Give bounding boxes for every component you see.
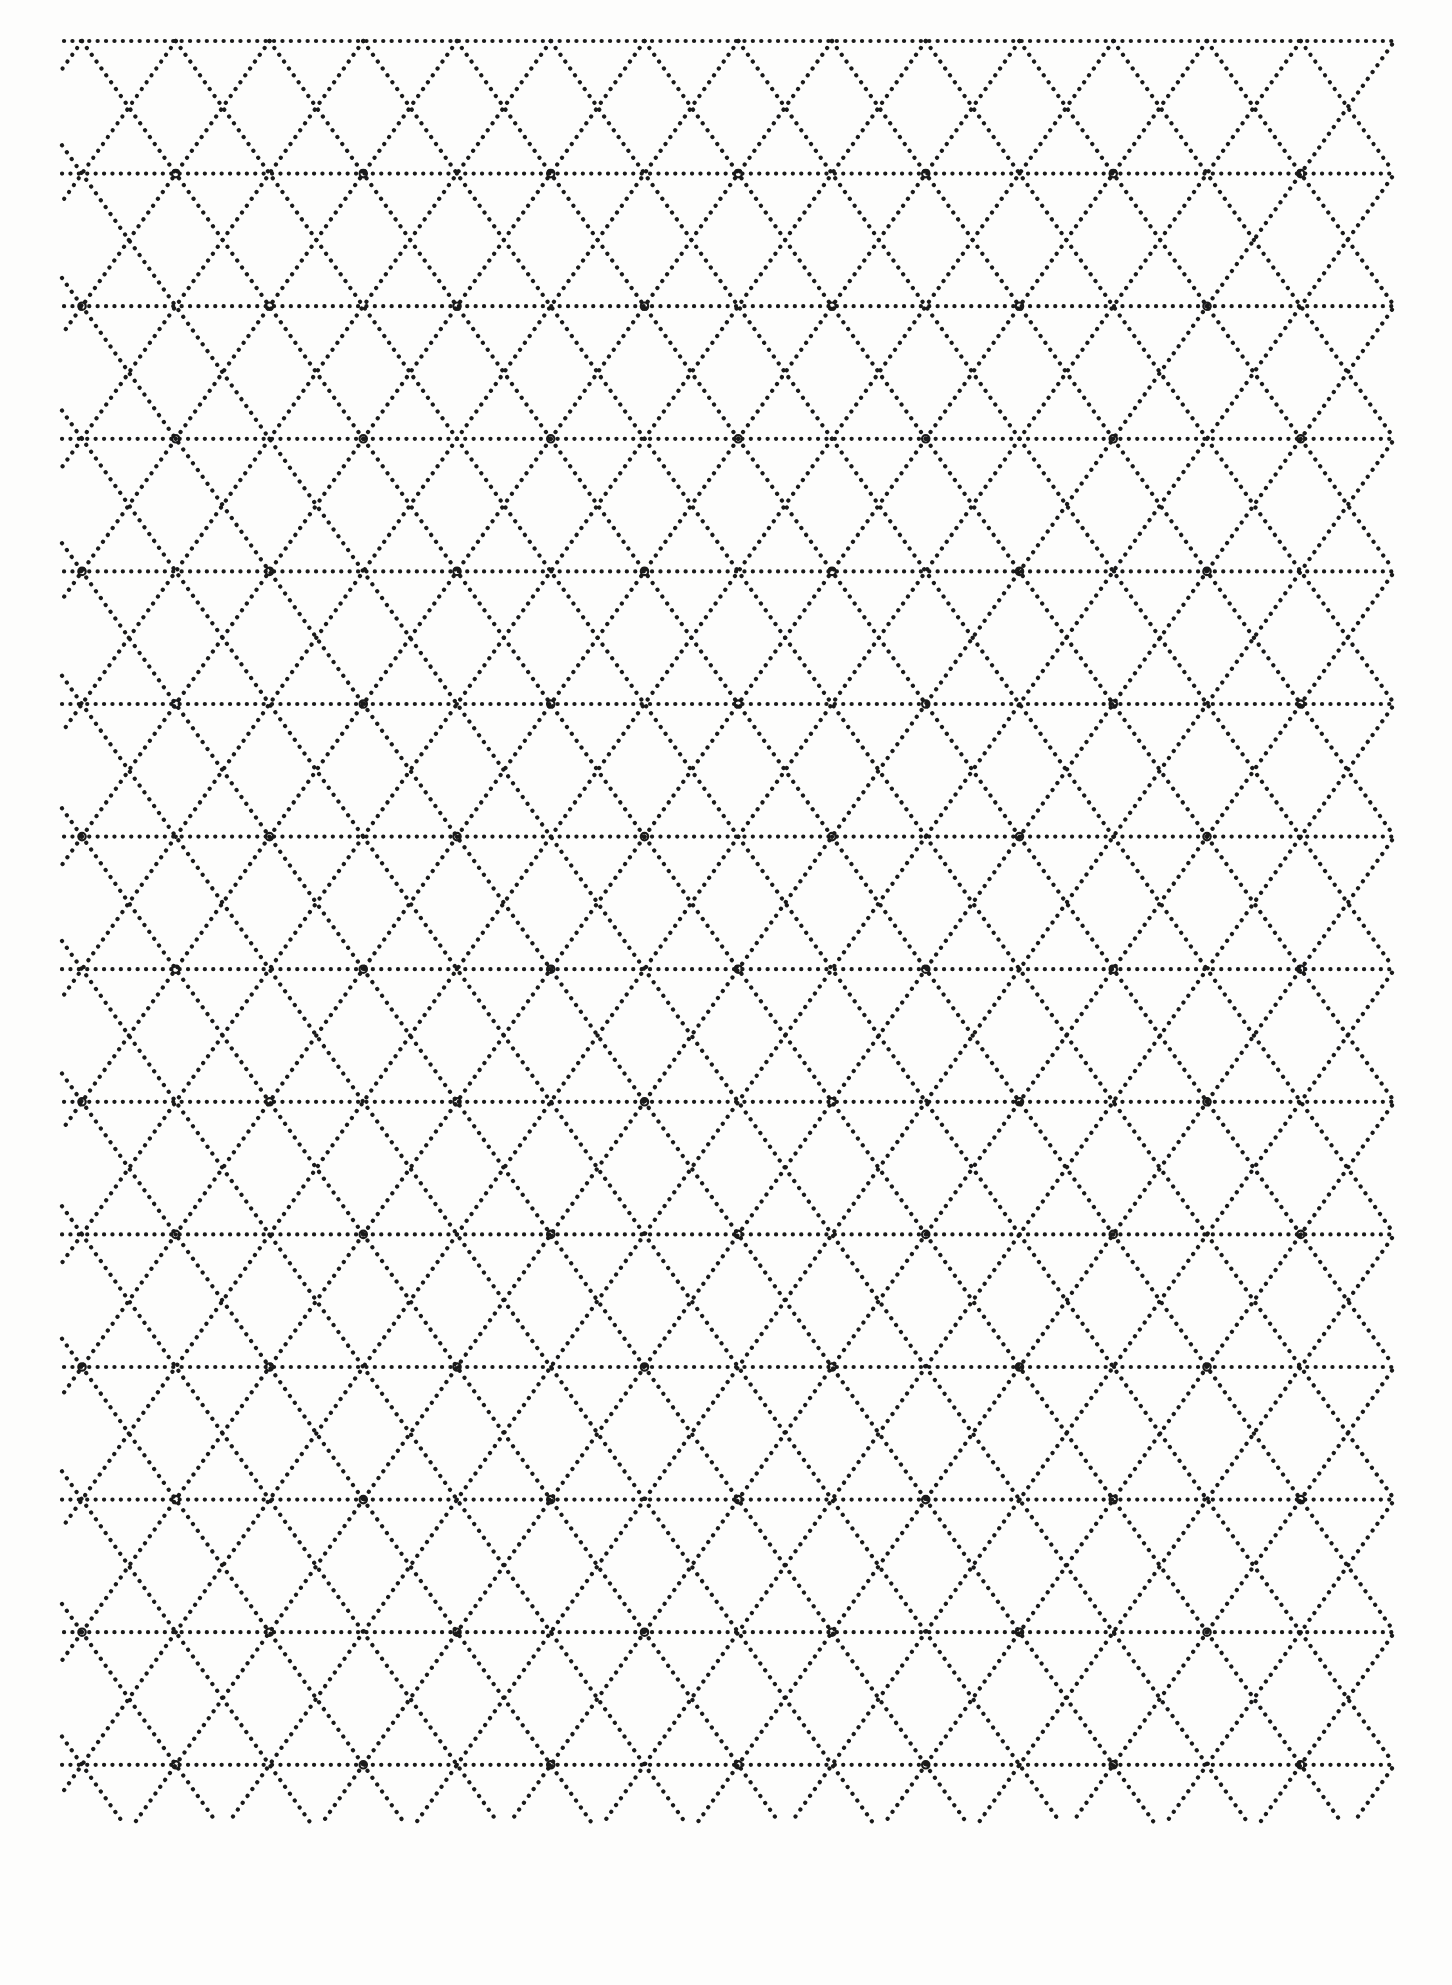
- isometric-grid-canvas: [0, 0, 1452, 1985]
- page-background: [0, 0, 1452, 1985]
- grid-paper-page: [0, 0, 1452, 1985]
